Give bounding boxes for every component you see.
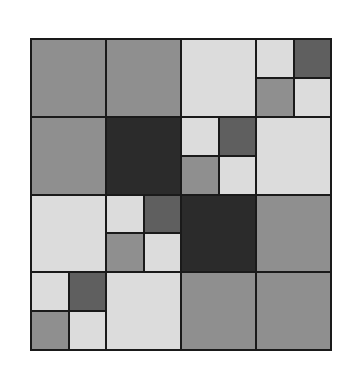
sub-cell-darkgray [220,118,256,155]
cell-mid [107,40,180,116]
subdivided-cell [257,40,330,116]
sub-cell-light [295,79,331,116]
subdivided-cell [182,118,255,194]
sub-cell-darkgray [295,40,331,77]
cell-mid [182,273,255,349]
sub-cell-light [32,273,68,310]
sub-cell-light [145,234,181,271]
sub-cell-light [220,157,256,194]
sub-cell-mid [32,312,68,349]
sub-cell-mid [257,79,293,116]
cell-light [182,40,255,116]
sub-cell-mid [107,234,143,271]
subdivided-cell [32,273,105,349]
sub-cell-light [182,118,218,155]
sub-cell-darkgray [70,273,106,310]
cell-mid [32,40,105,116]
sub-cell-light [70,312,106,349]
cell-light [257,118,330,194]
cell-light [32,196,105,272]
sub-cell-mid [182,157,218,194]
cell-mid [257,196,330,272]
subdivided-cell [107,196,180,272]
cell-mid [257,273,330,349]
cell-mid [32,118,105,194]
quadtree-grid [30,38,332,351]
cell-light [107,273,180,349]
cell-dark [182,196,255,272]
cell-dark [107,118,180,194]
sub-cell-light [107,196,143,233]
sub-cell-light [257,40,293,77]
sub-cell-darkgray [145,196,181,233]
